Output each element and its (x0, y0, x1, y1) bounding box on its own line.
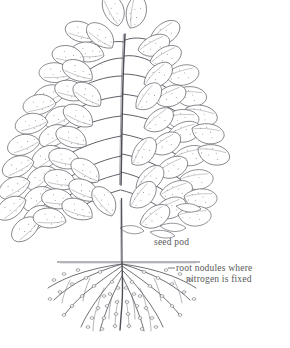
label-root-nodules: root nodules where nitrogen is fixed (176, 263, 252, 284)
label-seed-pod: seed pod (154, 237, 189, 248)
lower-stem (120, 198, 122, 262)
legume-plant-illustration (0, 0, 290, 348)
root-system (48, 262, 196, 331)
figure-page: seed pod root nodules where nitrogen is … (0, 0, 290, 348)
foliage-group (0, 0, 232, 246)
label-root-nodules-line-1: root nodules where (176, 263, 252, 274)
label-root-nodules-line-2: nitrogen is fixed (176, 274, 252, 285)
label-seed-pod-text: seed pod (154, 237, 189, 248)
main-stem (120, 34, 126, 185)
